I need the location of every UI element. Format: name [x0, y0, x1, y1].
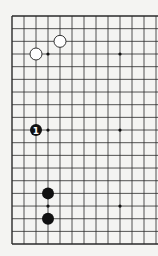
- white-stone[interactable]: [30, 48, 42, 60]
- white-stone[interactable]: [54, 35, 66, 47]
- star-point: [118, 128, 121, 131]
- star-point: [46, 204, 49, 207]
- black-stone[interactable]: [42, 187, 54, 199]
- star-point: [118, 52, 121, 55]
- star-point: [46, 128, 49, 131]
- black-stone[interactable]: [42, 213, 54, 225]
- go-board[interactable]: 1: [0, 0, 158, 256]
- star-point: [118, 204, 121, 207]
- black-stone[interactable]: 1: [30, 124, 42, 136]
- move-number-label: 1: [33, 126, 39, 136]
- star-point: [46, 52, 49, 55]
